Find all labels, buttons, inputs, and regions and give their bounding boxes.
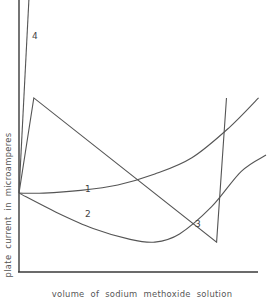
curve-labels-group: 1234 — [32, 31, 201, 229]
curve-2 — [19, 155, 266, 242]
curve-label-2: 2 — [85, 209, 91, 219]
curve-1 — [19, 98, 259, 193]
curve-label-1: 1 — [85, 184, 91, 194]
chart: 1234 volume of sodium methoxide solution… — [0, 0, 268, 305]
curve-label-4: 4 — [32, 31, 38, 41]
curve-label-3: 3 — [195, 219, 201, 229]
y-axis-label: plate current in microamperes — [3, 133, 13, 278]
curves-group — [19, 0, 266, 242]
x-axis-label: volume of sodium methoxide solution — [52, 289, 233, 299]
